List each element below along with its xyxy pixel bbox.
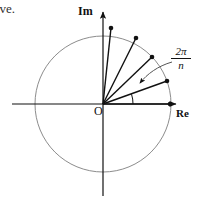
real-axis-label: Re [176,108,189,119]
root-point-2 [150,55,155,60]
figure-canvas [0,0,198,202]
complex-plane-figure: ove. Im Re O 2π n [0,0,198,202]
origin-label: O [94,105,103,117]
imaginary-axis-label: Im [78,5,93,17]
ray-4 [103,28,111,104]
clipped-body-text: ove. [0,2,15,15]
angle-fraction-label: 2π n [168,46,194,71]
angle-denominator: n [168,59,194,71]
root-point-4 [109,26,114,31]
angle-numerator: 2π [168,46,194,58]
root-point-0 [168,102,173,107]
angle-arc [132,94,134,104]
root-point-1 [165,79,170,84]
ray-2 [103,57,152,104]
root-point-3 [134,36,139,41]
